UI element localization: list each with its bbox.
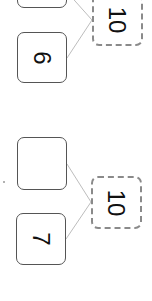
bond-1-part-2-value: 6: [30, 51, 54, 64]
bond-2-whole-value: 10: [104, 189, 128, 216]
bond-2-part-2-box[interactable]: 7: [16, 213, 66, 265]
bond-2-whole-box[interactable]: 10: [91, 176, 142, 229]
stray-dot: [3, 181, 5, 183]
bond-2-part-1-box[interactable]: [17, 137, 67, 190]
bond-2-part-2-value: 7: [29, 232, 53, 245]
bond-1-part-2-box[interactable]: 6: [17, 32, 67, 83]
bond-1-whole-value: 10: [105, 7, 129, 34]
bond-1-whole-box[interactable]: 10: [92, 0, 143, 46]
bond-1-part-1-box[interactable]: [17, 0, 67, 8]
